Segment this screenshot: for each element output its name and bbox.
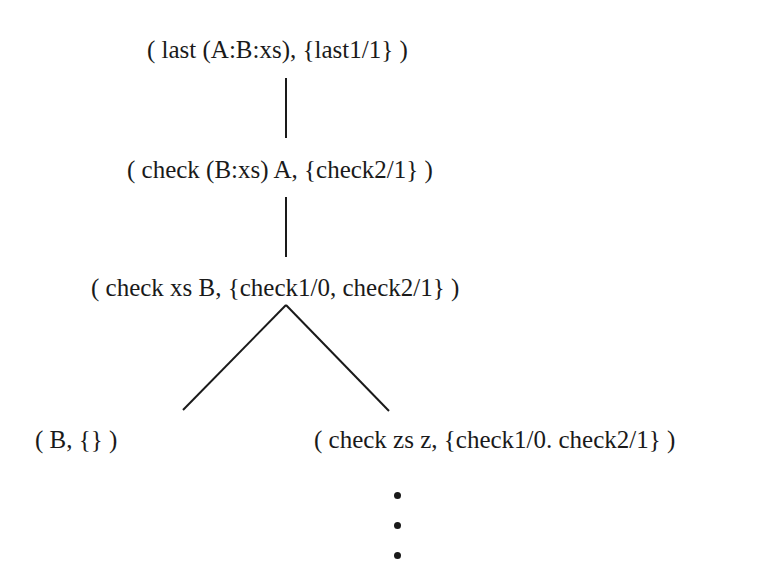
node-check-bxs: ( check (B:xs) A, {check2/1} )	[127, 157, 433, 182]
node-leaf-b: ( B, {} )	[35, 427, 117, 452]
ellipsis-dot-1	[394, 492, 401, 499]
node-root: ( last (A:B:xs), {last1/1} )	[147, 37, 408, 62]
edge-n3-n5	[286, 305, 389, 411]
node-check-xs: ( check xs B, {check1/0, check2/1} )	[91, 275, 459, 300]
edge-n3-n4	[183, 305, 286, 410]
node-check-zs: ( check zs z, {check1/0. check2/1} )	[314, 427, 675, 452]
ellipsis-dot-2	[394, 522, 401, 529]
ellipsis-dot-3	[394, 552, 401, 559]
